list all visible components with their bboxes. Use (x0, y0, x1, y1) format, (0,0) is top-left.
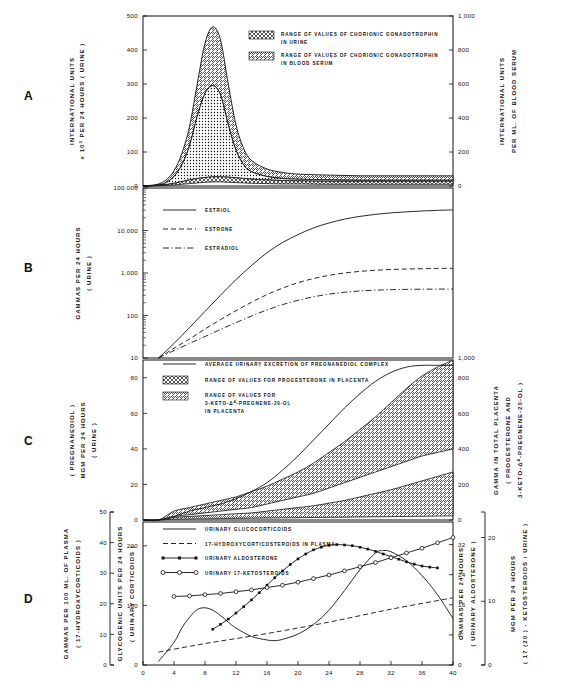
data-point (234, 590, 238, 594)
panel-a-ylabel-2: x 103 PER 24 HOURS ( URINE ) (78, 43, 86, 160)
data-point (312, 549, 315, 552)
data-point (250, 588, 254, 592)
legend-marker (178, 571, 182, 575)
panel-b-curve (159, 268, 454, 358)
panel-c-y2label-3: 3-KETO-Δ4-PREGNENE-20-OL ) (516, 382, 524, 498)
figure-container: 010020030040050002004006008001,000INTERN… (0, 0, 561, 691)
data-point (219, 592, 223, 596)
data-point (358, 565, 362, 569)
data-point (297, 558, 300, 561)
x-tick: 0 (141, 669, 145, 676)
data-point (397, 558, 400, 561)
panel-d-y2tick-outer: 0 (488, 661, 492, 668)
panel-b: 101001,00010,000100,0001,000GAMMAS PER 2… (75, 184, 475, 361)
svg-text:( URINARY ALDOSTERONE ): ( URINARY ALDOSTERONE ) (470, 541, 476, 647)
legend-text: ESTRONE (205, 227, 233, 232)
legend-swatch (249, 31, 274, 39)
data-point (374, 561, 378, 565)
data-point (374, 550, 377, 553)
data-point (405, 551, 409, 555)
svg-text:GAMMA IN TOTAL PLACENTA: GAMMA IN TOTAL PLACENTA (493, 385, 499, 495)
data-point (335, 543, 338, 546)
panel-letter-d: D (24, 592, 33, 606)
data-point (242, 605, 245, 608)
data-point (343, 569, 347, 573)
panel-d-y2tick-outer: 20 (488, 534, 496, 541)
legend-text: RANGE OF VALUES OF CHORIONIC GONADOTROPH… (281, 53, 438, 58)
data-point (420, 546, 424, 550)
data-point (219, 623, 222, 626)
svg-text:( URINARY CORTICOIDS ): ( URINARY CORTICOIDS ) (129, 545, 135, 642)
data-point (296, 580, 300, 584)
panel-d-ytick-outer: 0 (103, 661, 107, 668)
legend-swatch (249, 52, 274, 60)
data-point (389, 556, 393, 560)
data-point (265, 586, 269, 590)
panel-a-ytick: 300 (127, 80, 138, 87)
legend-text: AVERAGE URINARY EXCRETION OF PREGNANEDIO… (205, 362, 389, 367)
panel-a-y2tick: 0 (458, 182, 462, 189)
svg-text:( 17-HYDROXYCORTICOIDS ): ( 17-HYDROXYCORTICOIDS ) (75, 539, 81, 648)
legend-text: RANGE OF VALUES FOR PROGESTERONE IN PLAC… (205, 378, 369, 383)
panel-d-ytick-outer: 10 (100, 631, 108, 638)
panel-d-legend: URINARY GLUCOCORTICOIDS17-HYDROXYCORTICO… (161, 527, 335, 576)
panel-b-curve (159, 289, 454, 358)
data-point (172, 595, 176, 599)
svg-text:( PREGNANEDIOL ): ( PREGNANEDIOL ) (69, 404, 75, 476)
x-tick: 16 (263, 669, 271, 676)
panel-d-ytick-outer: 50 (100, 508, 108, 515)
panel-a-legend: RANGE OF VALUES OF CHORIONIC GONADOTROPH… (249, 31, 438, 66)
legend-text: URINARY GLUCOCORTICOIDS (205, 527, 292, 532)
panel-a-ytick: 400 (127, 46, 138, 53)
panel-d-curve (159, 550, 454, 661)
svg-text:MGM PER 24 HOURS: MGM PER 24 HOURS (80, 401, 86, 478)
data-point (343, 544, 346, 547)
legend-text: IN URINE (281, 40, 308, 45)
panel-d-y2tick-inner: 0 (458, 661, 462, 668)
panel-c-ytick: 80 (131, 374, 139, 381)
x-tick: 32 (387, 669, 395, 676)
panel-b-frame (143, 188, 453, 358)
legend-text: 17-HYDROXYCORTICOSTEROIDS IN PLASMA (205, 542, 335, 547)
panel-a-y2tick: 800 (458, 46, 469, 53)
multi-panel-endocrine-figure: 010020030040050002004006008001,000INTERN… (0, 0, 561, 691)
panel-b-curve (159, 210, 454, 358)
panel-c-y2tick: 600 (458, 410, 469, 417)
legend-text: ESTRIOL (205, 208, 231, 213)
panel-d-y2tick-outer: 10 (488, 597, 496, 604)
data-point (436, 541, 440, 545)
panel-letter-b: B (24, 261, 33, 275)
data-point (250, 599, 253, 602)
x-tick: 40 (449, 669, 457, 676)
data-point (312, 577, 316, 581)
data-point (281, 583, 285, 587)
panel-b-ytick: 100 (127, 312, 138, 319)
panel-c-ytick: 20 (131, 481, 139, 488)
panel-d-left-outer-axis: 01020304050 (100, 508, 114, 668)
svg-text:( URINE ): ( URINE ) (91, 422, 97, 457)
panel-d: 0100200081624320481216202428323640010203… (63, 508, 528, 676)
panel-c: 0204060800200400600800MGM PER 24 HOURS( … (69, 360, 523, 523)
panel-letter-a: A (24, 89, 33, 103)
panel-c-y2tick: 400 (458, 445, 469, 452)
x-tick: 20 (294, 669, 302, 676)
panel-d-y2tick-inner: 32 (458, 541, 466, 548)
legend-text: 3-KETO-Δ4-PREGNENE-20-OL (205, 399, 291, 407)
data-point (351, 544, 354, 547)
data-point (289, 563, 292, 566)
svg-text:GAMMAS PER 24 HOURS: GAMMAS PER 24 HOURS (75, 227, 81, 320)
data-point (188, 594, 192, 598)
x-tick: 36 (418, 669, 426, 676)
data-point (451, 536, 455, 540)
svg-text:PER ML. OF BLOOD SERUM: PER ML. OF BLOOD SERUM (511, 49, 517, 153)
legend-text: RANGE OF VALUES FOR (205, 393, 276, 398)
panel-d-curve (159, 598, 454, 652)
legend-marker (161, 571, 165, 575)
panel-b-ytick: 1,000 (121, 269, 138, 276)
legend-marker (194, 571, 198, 575)
panel-d-ytick-outer: 30 (100, 569, 108, 576)
data-point (421, 565, 424, 568)
x-tick: 8 (203, 669, 207, 676)
svg-text:( URINE ): ( URINE ) (86, 255, 92, 290)
legend-marker (178, 557, 181, 560)
